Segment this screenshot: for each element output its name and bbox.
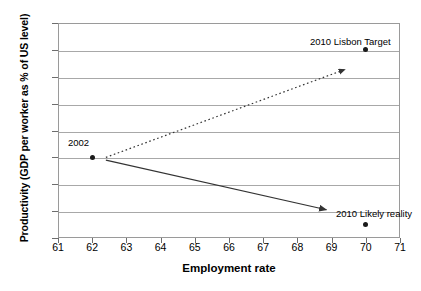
gridline bbox=[59, 132, 399, 133]
y-tick-mark bbox=[52, 157, 58, 158]
x-tick-mark bbox=[229, 238, 230, 243]
x-tick-mark bbox=[297, 238, 298, 243]
y-tick-mark bbox=[52, 50, 58, 51]
x-tick-mark bbox=[400, 238, 401, 243]
y-axis-title: Productivity (GDP per worker as % of US … bbox=[18, 8, 30, 248]
data-point-2002 bbox=[90, 155, 95, 160]
x-tick-mark bbox=[332, 238, 333, 243]
x-tick-mark bbox=[195, 238, 196, 243]
gridline bbox=[59, 105, 399, 106]
y-tick-mark bbox=[52, 77, 58, 78]
annotation-2002: 2002 bbox=[68, 137, 89, 148]
y-tick-mark bbox=[52, 131, 58, 132]
x-tick-mark bbox=[92, 238, 93, 243]
x-tick-mark bbox=[58, 238, 59, 243]
annotation-lisbon-target: 2010 Lisbon Target bbox=[310, 36, 391, 47]
x-tick-mark bbox=[366, 238, 367, 243]
x-tick-mark bbox=[263, 238, 264, 243]
plot-area bbox=[58, 23, 400, 238]
gridline bbox=[59, 78, 399, 79]
y-tick-mark bbox=[52, 104, 58, 105]
gridline bbox=[59, 51, 399, 52]
x-tick-mark bbox=[161, 238, 162, 243]
gridline bbox=[59, 185, 399, 186]
y-tick-mark bbox=[52, 23, 58, 24]
annotation-likely-reality: 2010 Likely reality bbox=[336, 208, 412, 219]
y-tick-mark bbox=[52, 211, 58, 212]
productivity-employment-chart: Productivity (GDP per worker as % of US … bbox=[0, 0, 421, 291]
x-axis-title: Employment rate bbox=[58, 262, 400, 274]
x-tick-mark bbox=[126, 238, 127, 243]
y-tick-mark bbox=[52, 184, 58, 185]
gridline bbox=[59, 158, 399, 159]
